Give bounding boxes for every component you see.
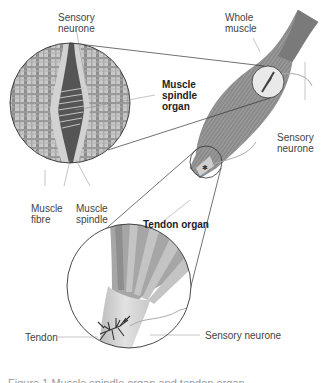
tendon-organ-magnified: [67, 224, 195, 348]
label-muscle-spindle: Muscle spindle: [76, 203, 108, 225]
label-sensory-neurone-right: Sensory neurone: [277, 132, 314, 154]
label-sensory-neurone-bottom: Sensory neurone: [205, 330, 281, 341]
svg-text:✱: ✱: [202, 164, 208, 172]
diagram-stage: ✱: [0, 0, 325, 383]
label-sensory-neurone-top: Sensory neurone: [58, 12, 95, 34]
label-tendon: Tendon: [25, 332, 58, 343]
figure-caption: Figure 1 Muscle spindle organ and tendon…: [8, 376, 325, 383]
label-tendon-organ: Tendon organ: [143, 219, 209, 230]
spindle-locator-circle: [252, 66, 284, 98]
label-muscle-fibre: Muscle fibre: [31, 203, 63, 225]
label-muscle-spindle-organ: Muscle spindle organ: [162, 79, 197, 112]
diagram-svg: ✱: [0, 0, 325, 383]
label-whole-muscle: Whole muscle: [225, 12, 257, 34]
